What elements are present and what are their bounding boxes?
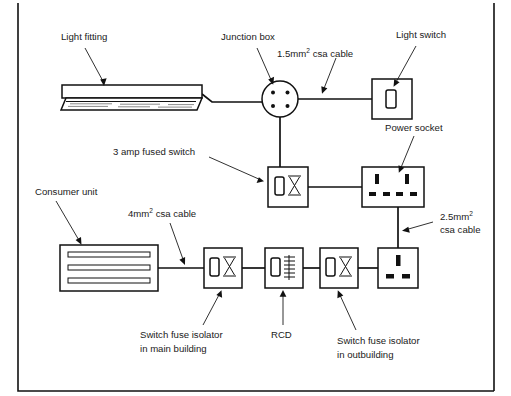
junction-terminal [271, 91, 275, 95]
label-cable-1-5-rest: csa cable [310, 48, 353, 59]
label-isolator-main-line1: Switch fuse isolator [140, 329, 223, 340]
switch-rocker [275, 177, 284, 195]
socket-earth-pin [396, 255, 401, 266]
leader-cable-4 [170, 223, 184, 262]
leader-isolator-main [203, 293, 220, 325]
socket-pin [402, 274, 410, 279]
power-socket-double[interactable] [362, 167, 424, 207]
leader-cable-2-5 [405, 222, 433, 230]
rcd[interactable] [265, 248, 303, 288]
junction-terminal [286, 104, 290, 108]
leader-light-fitting [85, 48, 104, 83]
label-cable-1-5-main: 1.5mm [277, 48, 306, 59]
label-power-socket: Power socket [385, 122, 443, 133]
leader-power-socket [400, 136, 414, 170]
label-rcd: RCD [271, 329, 292, 340]
socket-pin [410, 192, 417, 196]
label-isolator-outbuilding-line1: Switch fuse isolator [337, 335, 420, 346]
switch-rocker [326, 258, 335, 276]
label-fused-switch: 3 amp fused switch [113, 146, 195, 157]
fused-switch-3amp[interactable] [268, 167, 308, 207]
label-junction-box: Junction box [221, 31, 275, 42]
wiring-diagram: Light fitting Junction box 1.5mm2 csa ca… [0, 0, 511, 396]
switch-fuse-isolator-outbuilding[interactable] [320, 248, 358, 288]
switch-rocker [210, 258, 219, 276]
junction-terminal [286, 91, 290, 95]
label-cable-4-rest: csa cable [153, 208, 196, 219]
label-isolator-main-line2: in main building [140, 343, 207, 354]
leader-fused-switch [209, 157, 261, 180]
socket-earth-pin [375, 174, 379, 184]
switch-rocker [271, 258, 280, 276]
light-switch[interactable] [372, 79, 412, 119]
leader-consumer-unit [56, 201, 80, 242]
label-light-fitting: Light fitting [61, 31, 107, 42]
leader-junction-box [257, 48, 272, 82]
diagram-canvas: Light fitting Junction box 1.5mm2 csa ca… [0, 0, 511, 396]
socket-pin [383, 192, 390, 196]
label-cable-4-main: 4mm [128, 208, 149, 219]
label-consumer-unit: Consumer unit [35, 186, 98, 197]
consumer-unit[interactable] [60, 245, 158, 291]
junction-terminal [271, 104, 275, 108]
label-cable-2-5-line2: csa cable [440, 224, 481, 235]
light-fitting[interactable] [61, 85, 202, 110]
socket-pin [369, 192, 376, 196]
leader-isolator-outbuilding [339, 293, 356, 330]
label-cable-2-5-superscript: 2 [469, 210, 473, 217]
wire-light-to-junction [202, 94, 262, 102]
socket-pin [386, 274, 394, 279]
label-cable-2-5-main: 2.5mm [440, 211, 469, 222]
switch-rocker [386, 90, 396, 108]
label-cable-1-5: 1.5mm2 csa cable [277, 47, 353, 59]
label-light-switch: Light switch [396, 29, 446, 40]
label-cable-4: 4mm2 csa cable [128, 207, 196, 219]
socket-earth-pin [405, 174, 409, 184]
label-cable-2-5-line1: 2.5mm2 [440, 210, 473, 222]
switch-fuse-isolator-main[interactable] [204, 248, 242, 288]
socket-pin [396, 192, 403, 196]
power-socket-single[interactable] [378, 248, 418, 288]
junction-box[interactable] [262, 81, 298, 117]
label-isolator-outbuilding-line2: in outbuilding [337, 349, 394, 360]
leader-cable-1-5 [323, 58, 336, 91]
